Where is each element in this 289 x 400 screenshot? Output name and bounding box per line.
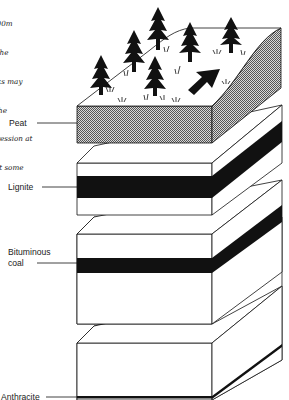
label-anthracite: Anthracite [1,392,40,400]
label-lignite: Lignite [8,182,33,192]
leader-lines [37,123,77,397]
coal-formation-diagram [0,0,289,400]
label-coal: coal [8,258,24,268]
label-peat: Peat [9,118,27,128]
label-bituminous: Bituminous [8,247,51,257]
